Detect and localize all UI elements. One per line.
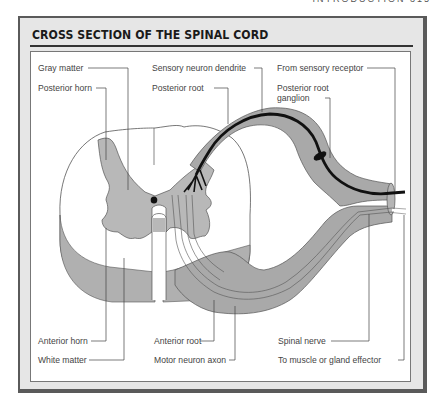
- label-posterior-horn: Posterior horn: [38, 83, 92, 93]
- spinal-cord-diagram: Gray matter Posterior horn Sensory neuro…: [0, 0, 445, 414]
- label-spinal-nerve: Spinal nerve: [278, 336, 326, 346]
- motor-neuron-axon-exit: [392, 210, 406, 212]
- label-posterior-root-ganglion-line2: ganglion: [277, 93, 310, 103]
- label-posterior-root: Posterior root: [152, 83, 204, 93]
- label-sensory-neuron-dendrite: Sensory neuron dendrite: [152, 63, 246, 73]
- central-canal: [151, 197, 158, 204]
- label-to-muscle-or-gland-effector: To muscle or gland effector: [278, 355, 381, 365]
- label-anterior-root: Anterior root: [154, 336, 202, 346]
- label-motor-neuron-axon: Motor neuron axon: [154, 355, 226, 365]
- label-anterior-horn: Anterior horn: [38, 336, 88, 346]
- label-from-sensory-receptor: From sensory receptor: [277, 63, 364, 73]
- label-gray-matter: Gray matter: [38, 63, 84, 73]
- label-white-matter: White matter: [38, 355, 87, 365]
- label-posterior-root-ganglion-line1: Posterior root: [277, 83, 329, 93]
